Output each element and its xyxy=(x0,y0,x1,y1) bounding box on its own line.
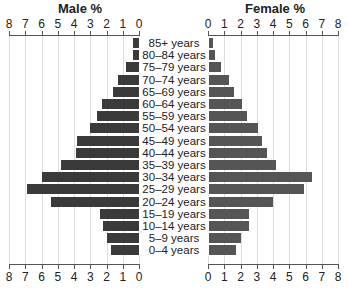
age-group-label: 40–44 years xyxy=(139,147,209,159)
right-tick-label: 2 xyxy=(235,270,247,284)
left-tick-label: 7 xyxy=(19,270,31,284)
right-tick-label: 8 xyxy=(332,17,344,31)
right-tick-label: 7 xyxy=(316,17,328,31)
male-bar xyxy=(90,123,139,133)
male-bar xyxy=(103,221,139,231)
axis-tick xyxy=(123,264,124,269)
grid-line xyxy=(58,35,59,264)
axis-tick xyxy=(90,264,91,269)
right-tick-label: 5 xyxy=(283,17,295,31)
male-bar xyxy=(42,172,140,182)
grid-line xyxy=(306,35,307,264)
axis-tick xyxy=(224,264,225,269)
male-bar xyxy=(27,184,139,194)
female-bar xyxy=(208,87,234,97)
left-tick-label: 6 xyxy=(36,270,48,284)
axis-tick xyxy=(306,31,307,36)
male-bar xyxy=(118,75,139,85)
left-tick-label: 1 xyxy=(117,270,129,284)
axis-tick xyxy=(107,264,108,269)
left-tick-label: 2 xyxy=(101,270,113,284)
right-tick-label: 4 xyxy=(267,270,279,284)
female-title: Female % xyxy=(245,1,305,16)
female-bar xyxy=(208,245,236,255)
axis-tick xyxy=(107,31,108,36)
female-bar xyxy=(208,221,249,231)
grid-line xyxy=(25,35,26,264)
male-bar xyxy=(77,136,139,146)
male-bar xyxy=(100,209,139,219)
axis-tick xyxy=(139,264,140,269)
age-group-label: 5–9 years xyxy=(139,232,209,244)
age-group-label: 25–29 years xyxy=(139,183,209,195)
axis-tick xyxy=(224,31,225,36)
age-group-label: 50–54 years xyxy=(139,122,209,134)
male-bar xyxy=(126,62,139,72)
axis-tick xyxy=(58,264,59,269)
female-bar xyxy=(208,136,262,146)
age-group-label: 75–79 years xyxy=(139,61,209,73)
female-bar xyxy=(208,209,249,219)
female-bar xyxy=(208,99,242,109)
right-tick-label: 1 xyxy=(218,17,230,31)
right-tick-label: 7 xyxy=(316,270,328,284)
left-tick-label: 8 xyxy=(3,270,15,284)
age-group-label: 80–84 years xyxy=(139,49,209,61)
axis-tick xyxy=(42,264,43,269)
axis-tick xyxy=(25,264,26,269)
axis-tick xyxy=(74,31,75,36)
female-bar xyxy=(208,111,247,121)
axis-tick xyxy=(273,264,274,269)
axis-tick xyxy=(90,31,91,36)
male-title: Male % xyxy=(58,1,102,16)
female-bar xyxy=(208,75,229,85)
grid-line xyxy=(42,35,43,264)
axis-tick xyxy=(208,31,209,36)
age-group-label: 0–4 years xyxy=(139,244,209,256)
grid-line xyxy=(289,35,290,264)
left-tick-label: 5 xyxy=(52,270,64,284)
male-bar xyxy=(102,99,139,109)
left-tick-label: 2 xyxy=(101,17,113,31)
axis-tick xyxy=(25,31,26,36)
male-bar xyxy=(113,87,139,97)
axis-tick xyxy=(322,264,323,269)
right-tick-label: 2 xyxy=(235,17,247,31)
left-tick-label: 7 xyxy=(19,17,31,31)
age-group-label: 35–39 years xyxy=(139,159,209,171)
age-group-label: 65–69 years xyxy=(139,86,209,98)
female-bar xyxy=(208,172,312,182)
left-tick-label: 3 xyxy=(84,17,96,31)
grid-line xyxy=(273,35,274,264)
axis-tick xyxy=(289,31,290,36)
axis-tick xyxy=(9,264,10,269)
left-tick-label: 0 xyxy=(133,270,145,284)
axis-tick xyxy=(338,264,339,269)
female-bar xyxy=(208,160,276,170)
right-tick-label: 3 xyxy=(251,270,263,284)
right-tick-label: 6 xyxy=(300,270,312,284)
axis-tick xyxy=(273,31,274,36)
axis-tick xyxy=(338,31,339,36)
grid-line xyxy=(338,35,339,264)
axis-tick xyxy=(208,264,209,269)
female-bar xyxy=(208,233,241,243)
right-tick-label: 4 xyxy=(267,17,279,31)
female-bar xyxy=(208,148,267,158)
male-bar xyxy=(76,148,139,158)
age-group-label: 85+ years xyxy=(139,37,209,49)
axis-tick xyxy=(241,31,242,36)
right-tick-label: 0 xyxy=(202,17,214,31)
grid-line xyxy=(322,35,323,264)
axis-tick xyxy=(306,264,307,269)
age-group-label: 70–74 years xyxy=(139,74,209,86)
male-bar xyxy=(51,197,139,207)
female-bar xyxy=(208,184,304,194)
axis-tick xyxy=(257,31,258,36)
female-bar xyxy=(208,123,258,133)
age-group-label: 20–24 years xyxy=(139,196,209,208)
right-tick-label: 6 xyxy=(300,17,312,31)
male-bar xyxy=(97,111,139,121)
age-group-label: 45–49 years xyxy=(139,135,209,147)
axis-tick xyxy=(241,264,242,269)
